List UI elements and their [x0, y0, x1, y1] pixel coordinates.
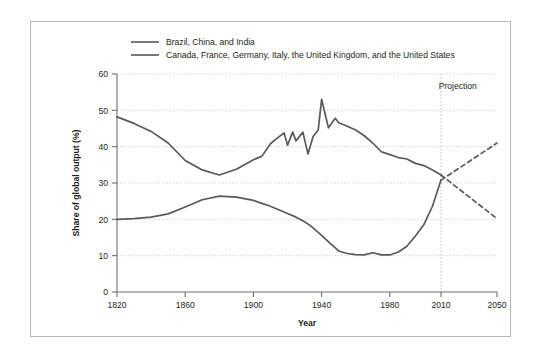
x-axis-ticks: 1820186019001940198020102050 — [107, 292, 506, 310]
series-line-3 — [441, 175, 497, 219]
y-axis-ticks: 0102030405060 — [98, 69, 117, 297]
x-tick-label-1900: 1900 — [244, 300, 263, 310]
line-chart: 0102030405060 18201860190019401980201020… — [31, 22, 510, 336]
series-line-2 — [441, 143, 497, 180]
chart-figure: 0102030405060 18201860190019401980201020… — [30, 21, 511, 337]
y-tick-label-30: 30 — [98, 178, 108, 188]
x-tick-label-1820: 1820 — [107, 300, 126, 310]
y-tick-label-60: 60 — [98, 69, 108, 79]
legend-label-g7: Canada, France, Germany, Italy, the Unit… — [166, 50, 455, 60]
y-tick-label-50: 50 — [98, 106, 108, 116]
x-axis-title: Year — [298, 318, 317, 328]
x-tick-label-1940: 1940 — [312, 300, 331, 310]
series-lines — [117, 99, 497, 255]
gridlines — [117, 74, 497, 256]
chart-legend: Brazil, China, and India Canada, France,… — [131, 37, 455, 60]
y-axis-title: Share of global output (%) — [71, 129, 81, 236]
y-tick-label-40: 40 — [98, 142, 108, 152]
y-tick-label-20: 20 — [98, 215, 108, 225]
annotation-projection: Projection — [439, 81, 477, 91]
x-tick-label-1860: 1860 — [176, 300, 195, 310]
y-tick-label-10: 10 — [98, 251, 108, 261]
x-tick-label-2050: 2050 — [487, 300, 506, 310]
chart-annotations: Projection — [439, 81, 477, 91]
x-tick-label-1980: 1980 — [380, 300, 399, 310]
legend-label-brazil-china-india: Brazil, China, and India — [166, 37, 255, 47]
series-line-1 — [117, 99, 441, 175]
series-line-0 — [117, 180, 441, 255]
y-tick-label-0: 0 — [103, 287, 108, 297]
x-tick-label-2010: 2010 — [431, 300, 450, 310]
